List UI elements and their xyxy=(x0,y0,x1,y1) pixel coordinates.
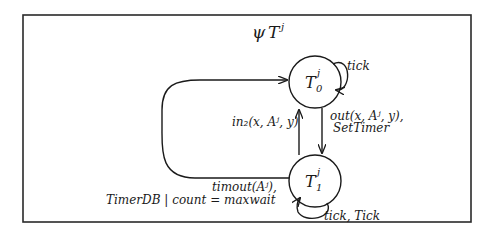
svg-text:0: 0 xyxy=(316,83,323,94)
transition-t0-to-t1: out(x, Aʲ, y), SetTimer xyxy=(322,108,404,153)
transition-t1-tick-loop: tick, Tick xyxy=(297,198,380,223)
svg-text:timout(Aʲ),: timout(Aʲ), xyxy=(212,180,277,194)
state-t1: T 1 j xyxy=(289,155,341,207)
svg-text:tick: tick xyxy=(347,59,370,73)
svg-text:1: 1 xyxy=(316,182,322,193)
state-diagram: ψ T j T 0 j T 1 j tick out(x, Aʲ, y), Se… xyxy=(0,0,497,238)
svg-text:SetTimer: SetTimer xyxy=(333,121,390,135)
transition-t0-tick-loop: tick xyxy=(333,59,370,90)
svg-text:in₂(x, Aʲ, y): in₂(x, Aʲ, y) xyxy=(232,115,299,129)
svg-text:j: j xyxy=(315,166,320,177)
svg-text:j: j xyxy=(279,21,284,32)
transition-t1-to-t0-timeout: timout(Aʲ), TimerDB | count = maxwait xyxy=(106,80,289,207)
svg-text:ψ: ψ xyxy=(252,22,266,42)
svg-text:j: j xyxy=(315,67,320,78)
svg-text:T: T xyxy=(268,22,281,42)
svg-text:TimerDB | count = maxwait: TimerDB | count = maxwait xyxy=(106,193,276,207)
transition-t1-to-t0-in2: in₂(x, Aʲ, y) xyxy=(232,110,299,155)
svg-text:tick, Tick: tick, Tick xyxy=(324,209,380,223)
diagram-title: ψ T j xyxy=(252,21,284,42)
